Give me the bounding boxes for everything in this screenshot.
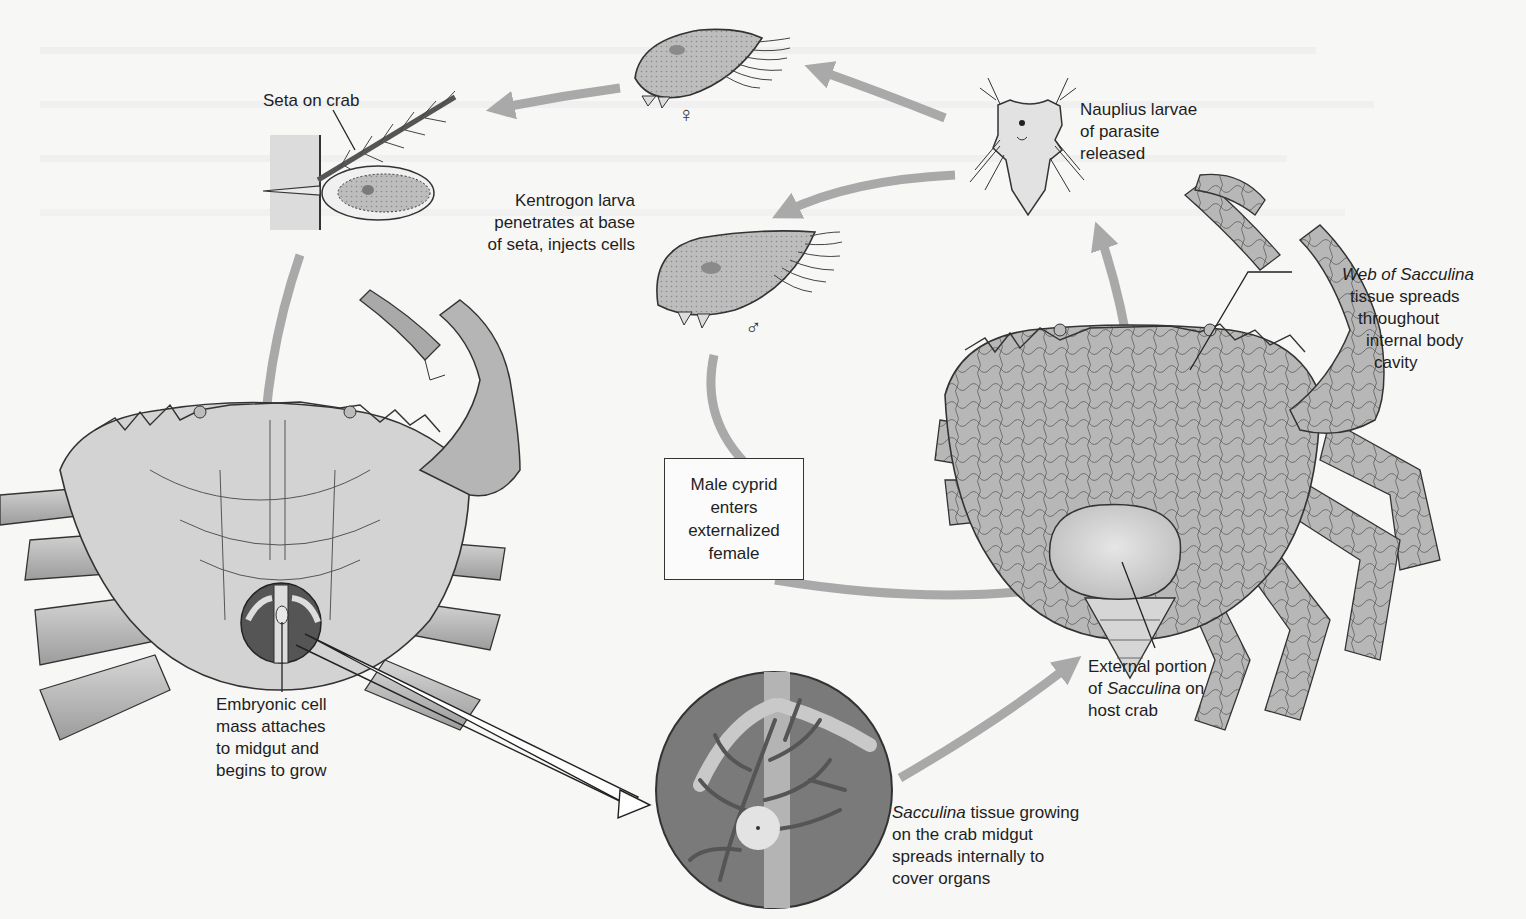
label-line-italic: Web of Sacculina — [1342, 264, 1474, 286]
male-symbol-icon: ♂ — [745, 317, 762, 339]
label-line: External portion — [1088, 656, 1207, 678]
label-line: cavity — [1342, 352, 1474, 374]
female-symbol-icon: ♀ — [678, 104, 695, 126]
midgut-magnified-circle — [656, 672, 892, 908]
label-line: Embryonic cell — [216, 694, 327, 716]
label-line-mixed: Sacculina tissue growing — [892, 802, 1079, 824]
label-embryonic-cell-mass: Embryonic cell mass attaches to midgut a… — [216, 694, 327, 782]
label-line: cover organs — [892, 868, 1079, 890]
label-line: enters — [675, 496, 793, 519]
male-cyprid-illustration — [657, 231, 842, 328]
label-text-italic: Sacculina — [1107, 679, 1181, 698]
label-line: on the crab midgut — [892, 824, 1079, 846]
label-seta-on-crab: Seta on crab — [263, 90, 359, 112]
label-text: tissue growing — [966, 803, 1079, 822]
label-line: of seta, injects cells — [460, 234, 635, 256]
label-line: to midgut and — [216, 738, 327, 760]
label-line: spreads internally to — [892, 846, 1079, 868]
nauplius-larva-illustration — [970, 78, 1084, 215]
left-crab-illustration — [0, 290, 520, 740]
label-line: mass attaches — [216, 716, 327, 738]
label-line: released — [1080, 143, 1197, 165]
female-cyprid-illustration — [635, 29, 790, 108]
label-line: Kentrogon larva — [460, 190, 635, 212]
label-line: Male cyprid — [675, 473, 793, 496]
label-line: tissue spreads — [1342, 286, 1474, 308]
label-sacculina-growing: Sacculina tissue growing on the crab mid… — [892, 802, 1079, 890]
label-line: female — [675, 542, 793, 565]
label-web-of-sacculina: Web of Sacculina tissue spreads througho… — [1342, 264, 1474, 374]
label-text: on — [1181, 679, 1205, 698]
label-text: of — [1088, 679, 1107, 698]
label-line: host crab — [1088, 700, 1207, 722]
label-text-italic: Sacculina — [892, 803, 966, 822]
label-line: externalized — [675, 519, 793, 542]
label-line: of parasite — [1080, 121, 1197, 143]
label-line-mixed: of Sacculina on — [1088, 678, 1207, 700]
seta-leader-line — [333, 110, 355, 150]
label-kentrogon-larva: Kentrogon larva penetrates at base of se… — [460, 190, 635, 256]
label-male-cyprid-box: Male cyprid enters externalized female — [664, 458, 804, 580]
label-line: Seta on crab — [263, 90, 359, 112]
label-nauplius-larvae: Nauplius larvae of parasite released — [1080, 99, 1197, 165]
label-line: Nauplius larvae — [1080, 99, 1197, 121]
right-crab-illustration — [935, 174, 1440, 730]
label-line: begins to grow — [216, 760, 327, 782]
label-line: penetrates at base — [460, 212, 635, 234]
sacculina-life-cycle-diagram: Seta on crab Kentrogon larva penetrates … — [0, 0, 1526, 919]
label-line: internal body — [1342, 330, 1474, 352]
label-line: throughout — [1342, 308, 1474, 330]
label-external-portion: External portion of Sacculina on host cr… — [1088, 656, 1207, 722]
